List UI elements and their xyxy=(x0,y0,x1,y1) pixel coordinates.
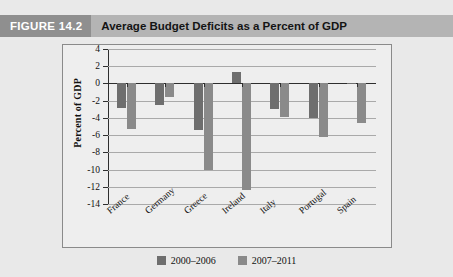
figure-header: FIGURE 14.2 Average Budget Deficits as a… xyxy=(0,15,453,37)
y-axis-tick-label: 0 xyxy=(95,78,100,88)
y-axis-tick xyxy=(103,187,108,188)
y-axis-tick-label: -6 xyxy=(92,130,100,140)
y-axis-line xyxy=(108,49,109,204)
bar xyxy=(319,83,328,136)
y-axis-label: Percent of GDP xyxy=(72,78,88,148)
bar xyxy=(357,83,366,123)
y-axis-tick xyxy=(103,118,108,119)
y-axis-tick xyxy=(103,135,108,136)
bar xyxy=(155,83,164,105)
bar xyxy=(165,83,174,97)
y-axis-tick-label: 4 xyxy=(95,44,100,54)
bar xyxy=(280,83,289,117)
legend-swatch xyxy=(238,256,247,265)
figure-container: FIGURE 14.2 Average Budget Deficits as a… xyxy=(0,0,453,277)
figure-title: Average Budget Deficits as a Percent of … xyxy=(101,20,347,32)
legend-label: 2000–2006 xyxy=(171,255,216,266)
x-axis-tick xyxy=(357,83,358,87)
y-axis-tick-label: -2 xyxy=(92,96,100,106)
y-axis-tick-label: -14 xyxy=(87,199,100,209)
x-axis-tick xyxy=(242,83,243,87)
bar xyxy=(204,83,213,170)
bar xyxy=(127,83,136,129)
y-axis-tick xyxy=(103,83,108,84)
legend-label: 2007–2011 xyxy=(252,255,297,266)
chart-legend: 2000–20062007–2011 xyxy=(0,255,453,266)
y-axis-tick-label: -12 xyxy=(87,182,100,192)
legend-swatch xyxy=(157,256,166,265)
gridline xyxy=(108,49,376,50)
legend-item[interactable]: 2007–2011 xyxy=(238,255,297,266)
y-axis-tick xyxy=(103,152,108,153)
y-axis-tick xyxy=(103,66,108,67)
x-axis-tick xyxy=(204,83,205,87)
y-axis-tick-label: 2 xyxy=(95,61,100,71)
bar xyxy=(309,83,318,117)
gridline xyxy=(108,66,376,67)
y-axis-tick-label: -8 xyxy=(92,147,100,157)
bar xyxy=(270,83,279,109)
figure-number-badge: FIGURE 14.2 xyxy=(0,15,91,37)
y-axis-tick xyxy=(103,170,108,171)
y-axis-tick-label: -4 xyxy=(92,113,100,123)
x-axis-tick xyxy=(165,83,166,87)
bar xyxy=(242,83,251,190)
plot-area: 420-2-4-6-8-10-12-14 FranceGermanyGreece… xyxy=(108,49,376,204)
legend-item[interactable]: 2000–2006 xyxy=(157,255,216,266)
bar xyxy=(117,83,126,107)
x-axis-tick xyxy=(127,83,128,87)
y-axis-tick-label: -10 xyxy=(87,165,100,175)
bar xyxy=(194,83,203,130)
bar xyxy=(347,83,356,84)
x-axis-tick xyxy=(280,83,281,87)
y-axis-tick xyxy=(103,101,108,102)
bar xyxy=(232,72,241,83)
y-axis-tick xyxy=(103,49,108,50)
x-axis-tick xyxy=(319,83,320,87)
